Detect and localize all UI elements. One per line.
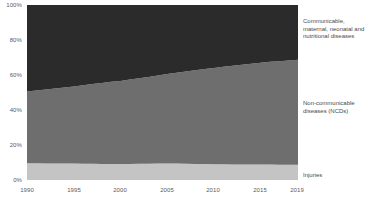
y-axis-label-40: 40% [0,107,22,113]
area-band-injuries [27,163,298,180]
x-axis-label-2000: 2000 [105,187,135,193]
legend-label-injuries: Injuries [303,172,365,180]
series-layer [27,5,298,180]
y-axis-label-80: 80% [0,37,22,43]
x-axis-label-2010: 2010 [198,187,228,193]
x-axis-label-1990: 1990 [12,187,42,193]
x-axis-label-2015: 2015 [245,187,275,193]
x-axis-label-2019: 2019 [282,187,312,193]
y-axis-label-100: 100% [0,2,22,8]
legend-label-ncd: Non-communicable diseases (NCDs) [303,100,365,115]
y-axis-label-0: 0% [0,177,22,183]
y-axis-label-60: 60% [0,72,22,78]
x-axis-label-1995: 1995 [59,187,89,193]
y-axis-label-20: 20% [0,142,22,148]
x-axis-label-2005: 2005 [152,187,182,193]
plot-svg [27,5,298,180]
plot-area [27,5,298,180]
legend-label-communicable: Communicable, maternal, neonatal and nut… [303,18,365,41]
